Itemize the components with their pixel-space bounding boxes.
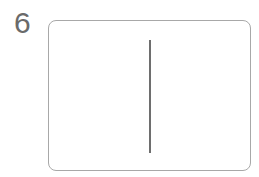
vertical-line bbox=[149, 40, 151, 153]
figure-number: 6 bbox=[14, 8, 31, 38]
